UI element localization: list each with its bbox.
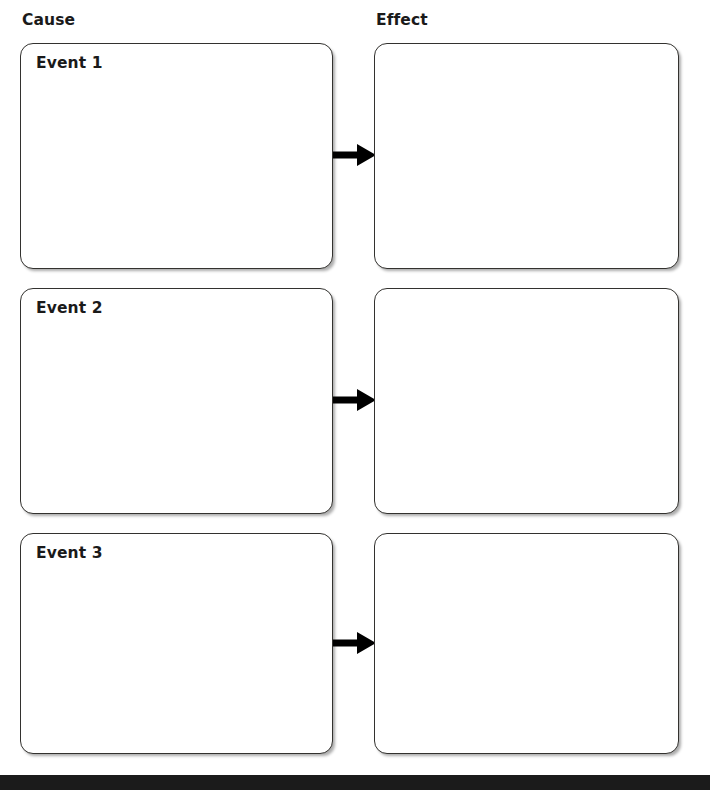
cause-box[interactable]: Event 3 [20,533,333,754]
column-header-effect: Effect [376,13,428,29]
column-header-cause: Cause [22,13,75,29]
cause-box-label: Event 3 [36,545,103,562]
cause-box-label: Event 2 [36,300,103,317]
effect-box[interactable] [374,43,679,269]
cause-box-label: Event 1 [36,55,103,72]
right-arrow-icon [333,385,377,415]
cause-effect-row: Event 2 [0,288,710,514]
effect-box[interactable] [374,288,679,514]
bottom-bar [0,775,710,790]
cause-effect-row: Event 3 [0,533,710,754]
right-arrow-icon [333,628,377,658]
right-arrow-icon [333,140,377,170]
cause-box[interactable]: Event 2 [20,288,333,514]
cause-effect-row: Event 1 [0,43,710,269]
effect-box[interactable] [374,533,679,754]
worksheet-page: Cause Effect Event 1 Event 2 [0,0,710,790]
cause-box[interactable]: Event 1 [20,43,333,269]
